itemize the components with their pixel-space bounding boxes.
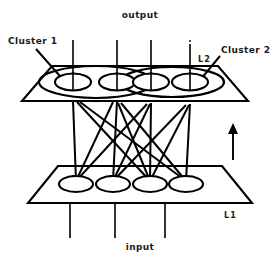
l1-node-3	[133, 176, 167, 192]
layer-l1-label: L1	[224, 211, 237, 220]
diagram-canvas: output Cluster 1 Cluster 2 L2	[0, 0, 280, 258]
upper-nodes-group	[55, 74, 208, 91]
output-tick-dot	[189, 40, 191, 42]
upward-flow-arrow-head	[228, 123, 238, 134]
network-diagram: output Cluster 1 Cluster 2 L2	[0, 0, 280, 258]
weight-lines-group	[73, 101, 190, 181]
upward-flow-arrow	[228, 123, 238, 160]
cluster-2-label: Cluster 2	[221, 45, 270, 55]
l1-node-2	[96, 176, 130, 192]
input-lines-group	[70, 203, 165, 238]
lower-nodes-group	[59, 176, 203, 192]
weight-line-v4	[186, 104, 190, 181]
output-label: output	[122, 10, 159, 20]
cluster-1-label: Cluster 1	[8, 36, 57, 46]
input-label: input	[126, 242, 155, 252]
l1-node-1	[59, 176, 93, 192]
l1-node-4	[169, 176, 203, 192]
weight-line-v1	[73, 101, 76, 181]
weight-line-3-1	[76, 104, 147, 181]
layer-l2-label: L2	[198, 55, 211, 64]
